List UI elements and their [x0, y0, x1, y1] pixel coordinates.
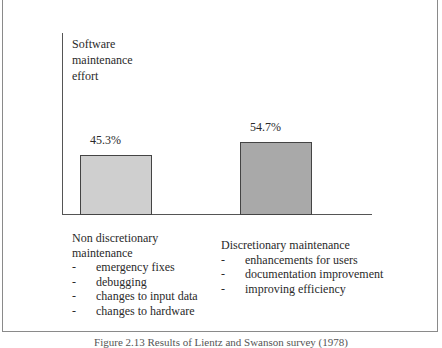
dash-bullet-icon: - [221, 253, 225, 268]
list-item: -emergency fixes [72, 260, 198, 275]
y-axis-title-line: effort [72, 68, 133, 84]
list-item: -changes to hardware [72, 304, 198, 319]
list-item-text: changes to input data [96, 289, 198, 303]
dash-bullet-icon: - [221, 267, 225, 282]
list-item: -improving efficiency [221, 282, 383, 297]
list-item-text: debugging [96, 275, 147, 289]
category-description-discretionary: Discretionary maintenance -enhancements … [221, 238, 383, 296]
category-title-line: Non discretionary [72, 231, 198, 246]
list-item-text: improving efficiency [245, 282, 346, 296]
list-item-text: emergency fixes [96, 260, 175, 274]
category-items-list: -enhancements for users -documentation i… [221, 253, 383, 297]
y-axis-title-line: Software [72, 36, 133, 52]
y-axis-title: Software maintenance effort [72, 36, 133, 84]
dash-bullet-icon: - [72, 275, 76, 290]
category-description-non-discretionary: Non discretionary maintenance -emergency… [72, 231, 198, 318]
list-item: -debugging [72, 275, 198, 290]
dash-bullet-icon: - [221, 282, 225, 297]
bar-non-discretionary [80, 155, 152, 215]
list-item: -documentation improvement [221, 267, 383, 282]
bar-value-label-discretionary: 54.7% [250, 120, 281, 135]
dash-bullet-icon: - [72, 304, 76, 319]
dash-bullet-icon: - [72, 260, 76, 275]
category-title-line: Discretionary maintenance [221, 238, 383, 253]
figure-caption: Figure 2.13 Results of Lientz and Swanso… [0, 336, 442, 348]
dash-bullet-icon: - [72, 289, 76, 304]
bar-discretionary [240, 142, 312, 215]
list-item: -enhancements for users [221, 253, 383, 268]
category-items-list: -emergency fixes -debugging -changes to … [72, 260, 198, 318]
y-axis [62, 33, 63, 215]
list-item-text: documentation improvement [245, 267, 383, 281]
y-axis-title-line: maintenance [72, 52, 133, 68]
list-item-text: changes to hardware [96, 304, 195, 318]
list-item: -changes to input data [72, 289, 198, 304]
bar-value-label-non-discretionary: 45.3% [90, 133, 121, 148]
category-title-line: maintenance [72, 246, 198, 261]
list-item-text: enhancements for users [245, 253, 358, 267]
